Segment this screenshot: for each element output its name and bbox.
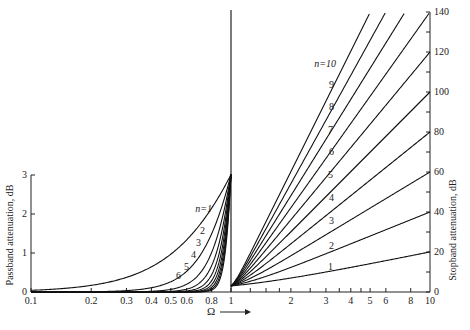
passband-x-tick-label: 0.1	[25, 295, 38, 306]
stopband-label-n3: 3	[329, 215, 334, 226]
stopband-label-n4: 4	[329, 192, 334, 203]
passband-y-axis-label: Passband attenuation, dB	[4, 184, 15, 285]
stopband-x-tick-label: 5	[368, 295, 373, 306]
stopband-label-n5: 5	[328, 169, 333, 180]
stopband-label-n8: 8	[329, 101, 334, 112]
stopband-axes: 02040608010012014023456810	[231, 6, 449, 306]
stopband-y-tick-label: 100	[434, 86, 449, 97]
stopband-x-tick-label: 8	[408, 295, 413, 306]
passband-label-n4: 4	[191, 249, 196, 260]
passband-axes: 01230.10.20.30.40.50.60.81	[22, 10, 234, 306]
stopband-y-tick-label: 40	[434, 206, 444, 217]
stopband-label-n2: 2	[329, 240, 334, 251]
stopband-y-axis-label: Stopband attenuation, dB	[447, 179, 458, 281]
stopband-label-n6: 6	[329, 146, 334, 157]
stopband-label-n1: 1	[328, 261, 333, 272]
passband-y-tick-label: 3	[22, 169, 27, 180]
stopband-label-n10: n=10	[314, 58, 336, 69]
arrow-head-icon	[245, 309, 251, 315]
stopband-y-tick-label: 80	[434, 126, 444, 137]
butterworth-attenuation-chart: 01230.10.20.30.40.50.60.81 0204060801001…	[0, 0, 470, 330]
passband-x-tick-label: 0.5	[165, 295, 178, 306]
passband-label-n2: 2	[200, 225, 205, 236]
stopband-x-tick-label: 3	[323, 295, 328, 306]
passband-x-tick-label: 1	[229, 295, 234, 306]
passband-label-n1: n=1	[195, 203, 212, 214]
passband-y-tick-label: 2	[22, 208, 27, 219]
stopband-x-tick-label: 10	[425, 295, 435, 306]
passband-label-n6: 6	[176, 270, 181, 281]
stopband-label-n9: 9	[329, 79, 334, 90]
stopband-y-tick-label: 60	[434, 166, 444, 177]
stopband-x-tick-label: 6	[383, 295, 388, 306]
passband-x-tick-label: 0.6	[180, 295, 193, 306]
stopband-y-tick-label: 140	[434, 6, 449, 17]
passband-x-tick-label: 0.2	[85, 295, 98, 306]
passband-y-tick-label: 1	[22, 247, 27, 258]
passband-x-tick-label: 0.4	[145, 295, 158, 306]
stopband-label-n7: 7	[328, 124, 333, 135]
passband-label-n3: 3	[196, 237, 201, 248]
passband-x-tick-label: 0.3	[120, 295, 133, 306]
omega-symbol: Ω	[207, 305, 215, 317]
omega-axis-label: Ω	[207, 305, 251, 317]
passband-label-n5: 5	[184, 261, 189, 272]
stopband-curve-n5	[231, 92, 430, 286]
stopband-y-tick-label: 20	[434, 246, 444, 257]
stopband-x-tick-label: 2	[288, 295, 293, 306]
stopband-x-tick-label: 4	[348, 295, 353, 306]
stopband-y-tick-label: 120	[434, 46, 449, 57]
